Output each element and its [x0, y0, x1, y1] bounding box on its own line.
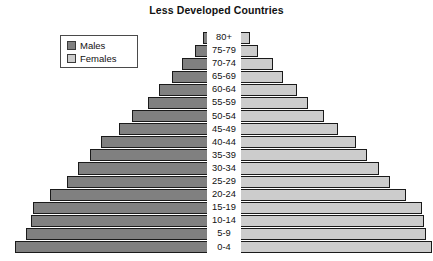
- female-bar: [236, 136, 356, 148]
- age-band-row: 60-64: [0, 83, 433, 96]
- male-bar: [132, 110, 211, 122]
- age-band-row: 45-49: [0, 123, 433, 136]
- female-bar: [236, 241, 432, 253]
- age-band-label: 70-74: [207, 57, 241, 70]
- female-bar: [236, 189, 406, 201]
- female-bar: [236, 202, 422, 214]
- female-bar: [236, 71, 283, 83]
- male-bar: [159, 84, 211, 96]
- male-bar: [33, 202, 211, 214]
- male-bar: [15, 241, 211, 253]
- male-bar: [67, 176, 211, 188]
- age-band-row: 15-19: [0, 201, 433, 214]
- male-bar: [26, 228, 211, 240]
- age-band-label: 75-79: [207, 44, 241, 57]
- female-bar: [236, 97, 308, 109]
- female-bar: [236, 176, 390, 188]
- chart-title: Less Developed Countries: [0, 4, 433, 16]
- age-band-label: 45-49: [207, 123, 241, 136]
- legend-item-males: Males: [67, 39, 137, 52]
- age-band-label: 15-19: [207, 201, 241, 214]
- age-band-label: 50-54: [207, 110, 241, 123]
- age-band-row: 10-14: [0, 214, 433, 227]
- age-band-row: 30-34: [0, 162, 433, 175]
- male-bar: [78, 162, 211, 174]
- male-bar: [172, 71, 211, 83]
- age-band-row: 50-54: [0, 110, 433, 123]
- legend-label-females: Females: [80, 53, 116, 64]
- age-band-label: 20-24: [207, 188, 241, 201]
- legend-item-females: Females: [67, 52, 137, 65]
- female-bar: [236, 84, 297, 96]
- age-band-row: 35-39: [0, 149, 433, 162]
- age-band-row: 55-59: [0, 96, 433, 109]
- age-band-label: 60-64: [207, 83, 241, 96]
- age-band-label: 25-29: [207, 175, 241, 188]
- legend-swatch-males-icon: [67, 41, 76, 50]
- male-bar: [90, 149, 211, 161]
- female-bar: [236, 228, 426, 240]
- age-band-label: 35-39: [207, 149, 241, 162]
- female-bar: [236, 215, 424, 227]
- male-bar: [119, 123, 211, 135]
- male-bar: [148, 97, 211, 109]
- age-band-row: 20-24: [0, 188, 433, 201]
- age-band-row: 40-44: [0, 136, 433, 149]
- age-band-label: 55-59: [207, 96, 241, 109]
- population-pyramid-chart: Less Developed Countries Males Females 8…: [0, 0, 433, 261]
- age-band-label: 65-69: [207, 70, 241, 83]
- age-band-row: 25-29: [0, 175, 433, 188]
- age-band-label: 5-9: [207, 227, 241, 240]
- female-bar: [236, 123, 338, 135]
- female-bar: [236, 58, 273, 70]
- female-bar: [236, 162, 379, 174]
- age-band-row: 0-4: [0, 241, 433, 254]
- chart-legend: Males Females: [60, 35, 138, 68]
- female-bar: [236, 110, 324, 122]
- age-band-label: 10-14: [207, 214, 241, 227]
- female-bar: [236, 149, 367, 161]
- age-band-label: 0-4: [207, 241, 241, 254]
- age-band-label: 80+: [207, 31, 241, 44]
- legend-swatch-females-icon: [67, 54, 76, 63]
- legend-label-males: Males: [80, 40, 105, 51]
- age-band-row: 65-69: [0, 70, 433, 83]
- age-band-label: 30-34: [207, 162, 241, 175]
- age-band-row: 5-9: [0, 227, 433, 240]
- age-band-label: 40-44: [207, 136, 241, 149]
- male-bar: [50, 189, 211, 201]
- male-bar: [101, 136, 211, 148]
- male-bar: [31, 215, 211, 227]
